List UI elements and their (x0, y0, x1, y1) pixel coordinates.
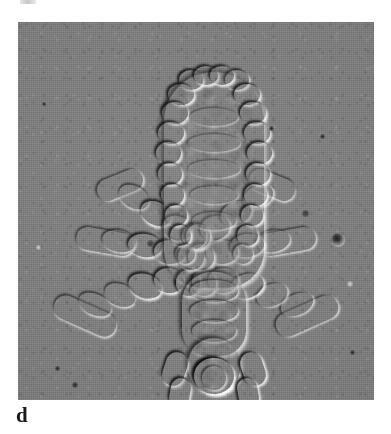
panel-label: d (16, 405, 28, 426)
debris-speck-8 (42, 102, 46, 106)
debris-particle-large (331, 233, 345, 247)
debris-speck-3 (72, 382, 78, 388)
micrograph-image (18, 22, 374, 400)
debris-speck-2 (302, 210, 309, 217)
debris-highlight-1 (347, 281, 353, 287)
figure-panel: d (0, 0, 391, 434)
debris-highlight-2 (36, 245, 41, 250)
debris-speck-6 (269, 126, 274, 131)
debris-speck-5 (320, 134, 325, 139)
debris-speck-7 (350, 350, 355, 355)
scan-artifact (20, 0, 36, 4)
debris-field (18, 22, 374, 400)
debris-speck-4 (55, 366, 60, 371)
debris-speck-1 (147, 240, 154, 247)
